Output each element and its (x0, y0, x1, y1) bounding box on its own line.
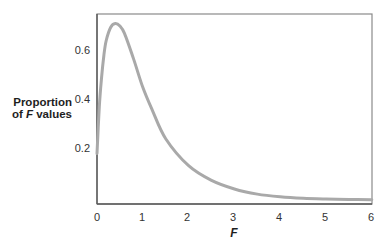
x-tick-5: 5 (315, 211, 335, 223)
y-tick-0.4: 0.4 (60, 93, 90, 105)
x-tick-4: 4 (269, 211, 289, 223)
x-axis-label: F (224, 226, 244, 240)
f-distribution-chart (0, 0, 383, 245)
x-tick-0: 0 (87, 211, 107, 223)
x-tick-6: 6 (361, 211, 381, 223)
x-tick-3: 3 (223, 211, 243, 223)
y-tick-0.6: 0.6 (60, 44, 90, 56)
plot-frame (97, 14, 372, 204)
y-axis-label-of: of (12, 108, 23, 120)
y-axis-label-f: F (26, 108, 33, 120)
density-curve (97, 24, 372, 200)
y-tick-0.2: 0.2 (60, 142, 90, 154)
x-tick-1: 1 (132, 211, 152, 223)
x-tick-2: 2 (177, 211, 197, 223)
y-axis-label-values: values (36, 108, 72, 120)
